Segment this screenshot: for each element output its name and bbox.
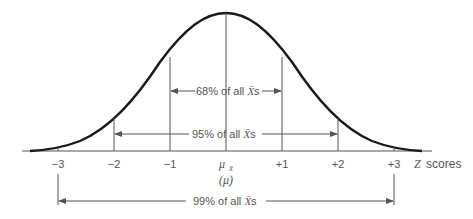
tick-label: −2	[108, 158, 121, 170]
band-99-label: 99% of all X̄s	[193, 195, 257, 207]
band-95-label: 95% of all X̄s	[192, 128, 256, 140]
mean-symbol: μ	[218, 157, 225, 171]
tick-label: +2	[332, 158, 345, 170]
axis-label: Z scores	[414, 157, 461, 171]
tick-label: +3	[388, 158, 401, 170]
band-68-label: 68% of all X̄s	[196, 85, 260, 97]
tick-label: −1	[164, 158, 177, 170]
tick-labels: −3 −2 −1 +1 +2 +3	[52, 158, 401, 170]
axis-label-scores: scores	[426, 157, 461, 171]
mean-paren-label: (μ)	[219, 173, 233, 187]
tick-label: −3	[52, 158, 65, 170]
tick-label: +1	[276, 158, 289, 170]
normal-distribution-diagram: −3 −2 −1 +1 +2 +3 μ X̄ (μ) Z scores 68% …	[0, 0, 473, 219]
mean-subscript: X̄	[228, 165, 234, 173]
axis-label-z: Z	[414, 157, 421, 171]
